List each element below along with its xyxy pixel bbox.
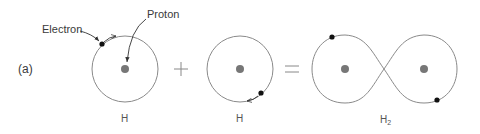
electron-dot: [99, 41, 104, 46]
atom-label-h2-subscript: 2: [387, 119, 391, 126]
atom-label-h2: H2: [380, 115, 391, 126]
atom-label-h-1: H: [121, 114, 128, 124]
equals-sign-icon: [285, 66, 299, 72]
electron-dot-right: [434, 97, 439, 102]
proton-dot-right: [420, 65, 428, 73]
panel-label: (a): [18, 63, 33, 75]
electron-motion-arrow: [104, 36, 116, 42]
electron-leader-line: [80, 31, 99, 41]
proton-dot-left: [341, 65, 349, 73]
electron-dot: [258, 90, 263, 95]
hydrogen-atom-1: [80, 19, 158, 102]
atom-label-h-2: H: [236, 114, 243, 124]
plus-sign-icon: [174, 62, 188, 76]
electron-motion-arrow: [247, 96, 258, 101]
hydrogen-bonding-diagram: (a) Electron Proton H H H2: [0, 0, 480, 134]
proton-callout-label: Proton: [147, 9, 179, 20]
hydrogen-atom-2: [207, 36, 273, 102]
molecular-orbital-figure-eight: [312, 35, 457, 103]
electron-callout-label: Electron: [42, 24, 82, 35]
electron-dot-left: [329, 34, 334, 39]
proton-dot: [121, 65, 129, 73]
proton-dot: [236, 65, 244, 73]
hydrogen-molecule: [312, 34, 457, 103]
proton-leader-line: [127, 19, 146, 62]
